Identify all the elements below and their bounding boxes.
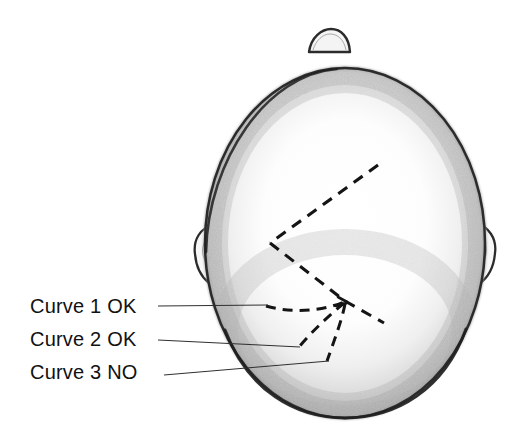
nose-bump	[309, 29, 350, 52]
curve-3-label: Curve 3 NO	[30, 362, 138, 382]
figure-canvas: Curve 1 OK Curve 2 OK Curve 3 NO	[0, 0, 522, 433]
curve-1-label: Curve 1 OK	[30, 296, 136, 316]
head-outline	[205, 68, 485, 418]
curve-2-label: Curve 2 OK	[30, 329, 136, 349]
